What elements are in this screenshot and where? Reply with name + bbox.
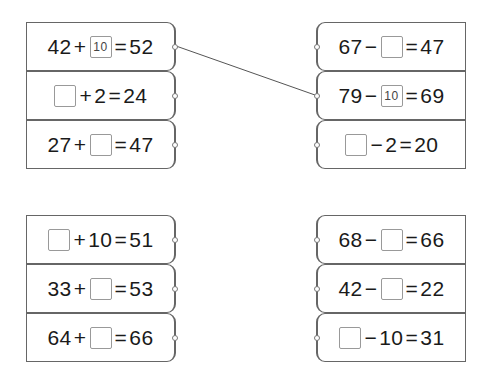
a: 79	[338, 84, 362, 108]
a: 64	[47, 326, 71, 350]
r: 24	[123, 84, 147, 108]
equation-card[interactable]: −10=31	[316, 313, 466, 362]
answer-box[interactable]	[381, 229, 403, 251]
r: 47	[420, 35, 444, 59]
op: +	[74, 326, 87, 350]
op: −	[365, 35, 378, 59]
answer-box[interactable]	[381, 278, 403, 300]
equation-card[interactable]: 33+=53	[26, 264, 176, 313]
eq: =	[406, 84, 419, 108]
equation-card[interactable]: 42−=22	[316, 264, 466, 313]
r: 47	[129, 133, 153, 157]
eq: =	[406, 277, 419, 301]
connector-dot[interactable]	[172, 286, 178, 292]
connector-dot[interactable]	[314, 142, 320, 148]
r: 53	[129, 277, 153, 301]
answer-box[interactable]	[90, 327, 112, 349]
eq: =	[406, 228, 419, 252]
equation-group-1: 42+10=52+2=2427+=47	[26, 22, 176, 169]
eq: =	[108, 84, 121, 108]
r: 51	[129, 228, 153, 252]
connector-dot[interactable]	[314, 286, 320, 292]
connector-dot[interactable]	[172, 142, 178, 148]
eq: =	[406, 326, 419, 350]
b: 2	[385, 133, 397, 157]
equation-card[interactable]: +2=24	[26, 71, 176, 120]
connector-dot[interactable]	[172, 93, 178, 99]
equation-card[interactable]: +10=51	[26, 215, 176, 264]
a: 42	[338, 277, 362, 301]
connector-dot[interactable]	[314, 93, 320, 99]
answer-box[interactable]: 10	[381, 85, 403, 107]
op: −	[365, 84, 378, 108]
r: 52	[129, 35, 153, 59]
connector-dot[interactable]	[314, 335, 320, 341]
connector-dot[interactable]	[172, 44, 178, 50]
op: +	[79, 84, 92, 108]
equation-card[interactable]: 42+10=52	[26, 22, 176, 71]
b: 10	[379, 326, 403, 350]
eq: =	[115, 228, 128, 252]
r: 66	[129, 326, 153, 350]
equation-card[interactable]: 27+=47	[26, 120, 176, 169]
eq: =	[115, 35, 128, 59]
r: 66	[420, 228, 444, 252]
answer-box[interactable]	[345, 134, 367, 156]
answer-box[interactable]	[48, 229, 70, 251]
connector-dot[interactable]	[172, 335, 178, 341]
a: 68	[338, 228, 362, 252]
eq: =	[115, 326, 128, 350]
equation-card[interactable]: 79−10=69	[316, 71, 466, 120]
a: 42	[47, 35, 71, 59]
op: −	[365, 228, 378, 252]
r: 22	[420, 277, 444, 301]
b: 2	[94, 84, 106, 108]
equation-card[interactable]: 68−=66	[316, 215, 466, 264]
op: −	[370, 133, 383, 157]
equation-group-3: +10=5133+=5364+=66	[26, 215, 176, 362]
connector-dot[interactable]	[172, 237, 178, 243]
equation-group-4: 68−=6642−=22−10=31	[316, 215, 466, 362]
eq: =	[406, 35, 419, 59]
b: 10	[88, 228, 112, 252]
answer-box[interactable]: 10	[90, 36, 112, 58]
a: 67	[338, 35, 362, 59]
equation-card[interactable]: 64+=66	[26, 313, 176, 362]
equation-card[interactable]: 67−=47	[316, 22, 466, 71]
connector-dot[interactable]	[314, 237, 320, 243]
connector-dot[interactable]	[314, 44, 320, 50]
eq: =	[115, 277, 128, 301]
r: 20	[414, 133, 438, 157]
equation-group-2: 67−=4779−10=69−2=20	[316, 22, 466, 169]
answer-box[interactable]	[339, 327, 361, 349]
op: +	[74, 35, 87, 59]
answer-box[interactable]	[90, 278, 112, 300]
answer-box[interactable]	[90, 134, 112, 156]
answer-box[interactable]	[54, 85, 76, 107]
op: +	[73, 228, 86, 252]
op: −	[364, 326, 377, 350]
op: −	[365, 277, 378, 301]
a: 27	[47, 133, 71, 157]
r: 31	[420, 326, 444, 350]
equation-card[interactable]: −2=20	[316, 120, 466, 169]
a: 33	[47, 277, 71, 301]
eq: =	[115, 133, 128, 157]
answer-box[interactable]	[381, 36, 403, 58]
r: 69	[420, 84, 444, 108]
eq: =	[399, 133, 412, 157]
op: +	[74, 133, 87, 157]
op: +	[74, 277, 87, 301]
